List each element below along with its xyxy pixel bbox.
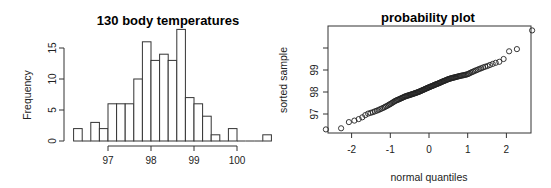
histogram-bar xyxy=(108,104,117,141)
histogram-bar xyxy=(117,104,126,141)
qq-point xyxy=(346,120,351,125)
histogram-panel: 130 body temperatures Frequency 051015 9… xyxy=(21,13,271,166)
histogram-bar xyxy=(151,60,160,141)
histogram-y-tick-label: 10 xyxy=(47,73,58,85)
histogram-bar xyxy=(211,135,220,141)
qq-y-tick-label: 99 xyxy=(309,64,320,76)
histogram-y-axis: 051015 xyxy=(47,42,64,144)
histogram-x-tick-label: 99 xyxy=(188,155,200,166)
histogram-y-tick-label: 5 xyxy=(47,107,58,113)
histogram-bar xyxy=(177,29,186,141)
qq-y-label: sorted sample xyxy=(277,47,289,113)
histogram-y-label: Frequency xyxy=(21,69,33,119)
histogram-title: 130 body temperatures xyxy=(97,13,239,28)
qq-point xyxy=(507,49,512,54)
histogram-x-tick-label: 98 xyxy=(145,155,157,166)
histogram-bar xyxy=(203,116,212,141)
qq-point xyxy=(493,60,498,65)
histogram-bar xyxy=(263,135,272,141)
histogram-bar xyxy=(91,122,100,141)
histogram-bar xyxy=(185,98,194,141)
qq-x-tick-label: -1 xyxy=(386,144,395,155)
histogram-bar xyxy=(74,129,83,141)
qq-point xyxy=(530,28,535,33)
qq-y-axis: 979899 xyxy=(309,48,328,120)
qq-plot-panel: probability plot sorted sample normal qu… xyxy=(277,10,535,183)
qq-x-tick-label: 0 xyxy=(426,144,432,155)
histogram-y-tick-label: 15 xyxy=(47,42,58,54)
histogram-bar xyxy=(168,60,177,141)
qq-point xyxy=(501,56,506,61)
qq-x-label: normal quantiles xyxy=(390,171,467,183)
qq-points xyxy=(323,28,534,132)
qq-x-tick-label: 2 xyxy=(504,144,510,155)
qq-y-tick-label: 97 xyxy=(309,108,320,120)
histogram-bar xyxy=(160,54,169,141)
qq-point xyxy=(339,126,344,131)
histogram-x-tick-label: 100 xyxy=(229,155,246,166)
histogram-x-axis: 979899100 xyxy=(102,146,245,166)
qq-x-axis: -2-1012 xyxy=(347,133,509,155)
qq-point xyxy=(514,47,519,52)
histogram-bar xyxy=(125,104,134,141)
histogram-bar xyxy=(142,42,151,141)
figure: 130 body temperatures Frequency 051015 9… xyxy=(0,0,551,188)
histogram-y-tick-label: 0 xyxy=(47,138,58,144)
qq-x-tick-label: 1 xyxy=(465,144,471,155)
histogram-bars xyxy=(74,29,272,141)
qq-title: probability plot xyxy=(381,10,476,25)
histogram-bar xyxy=(194,104,203,141)
histogram-bar xyxy=(99,129,108,141)
qq-x-tick-label: -2 xyxy=(347,144,356,155)
histogram-bar xyxy=(228,129,237,141)
histogram-bar xyxy=(134,79,143,141)
histogram-x-tick-label: 97 xyxy=(102,155,114,166)
qq-y-tick-label: 98 xyxy=(309,86,320,98)
